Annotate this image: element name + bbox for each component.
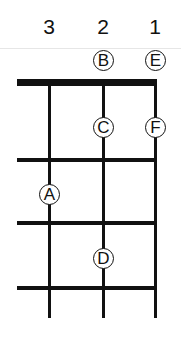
note-e: E bbox=[145, 50, 166, 71]
string-label-2: 2 bbox=[93, 14, 113, 40]
fret-3 bbox=[17, 286, 157, 290]
fret-1 bbox=[17, 158, 157, 162]
string-2 bbox=[102, 80, 105, 318]
fretboard-diagram: 3 2 1 B E C F A D bbox=[0, 0, 181, 338]
note-d: D bbox=[93, 248, 114, 269]
note-a: A bbox=[39, 184, 60, 205]
string-label-1: 1 bbox=[145, 14, 165, 40]
note-b: B bbox=[93, 50, 114, 71]
nut bbox=[17, 79, 157, 86]
string-label-3: 3 bbox=[39, 14, 59, 40]
string-1 bbox=[154, 80, 157, 318]
divider-line bbox=[0, 48, 181, 49]
note-f: F bbox=[145, 117, 166, 138]
fret-2 bbox=[17, 221, 157, 225]
note-c: C bbox=[93, 117, 114, 138]
